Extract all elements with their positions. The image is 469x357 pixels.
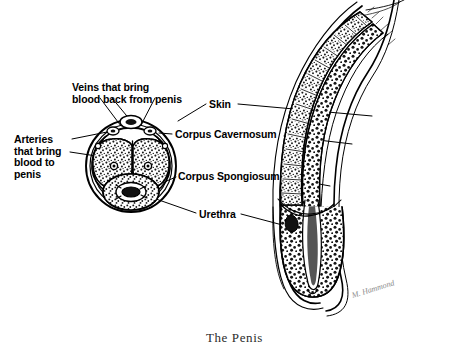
label-corpus-cavernosum: Corpus Cavernosum [175,129,277,141]
longitudinal-section-group [270,0,404,316]
cross-section-group [86,116,178,213]
label-urethra: Urethra [199,209,236,221]
label-skin: Skin [209,99,231,111]
label-arteries: Arteries that bring blood to penis [14,134,61,180]
figure-caption: The Penis [0,330,469,346]
label-corpus-spongiosum: Corpus Spongiosum [178,171,280,183]
label-veins: Veins that bring blood back from penis [72,82,182,105]
anatomical-figure: Veins that bring blood back from penis A… [0,0,469,357]
